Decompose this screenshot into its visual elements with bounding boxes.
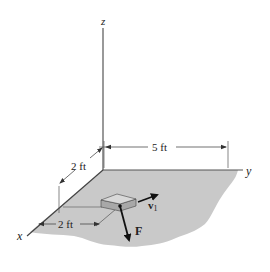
statics-diagram: z y x 5 ft 2 ft 2 ft v1 F [0,0,270,272]
x-axis-label: x [16,229,23,243]
z-axis-label: z [100,15,106,27]
dim-5ft-label: 5 ft [152,141,167,153]
y-axis-label: y [245,164,252,178]
force-label: F [135,224,142,238]
dim-2ft-back-line-b [90,148,102,158]
dim-2ft-back-label: 2 ft [71,160,86,172]
dim-2ft-front-label: 2 ft [58,218,73,230]
